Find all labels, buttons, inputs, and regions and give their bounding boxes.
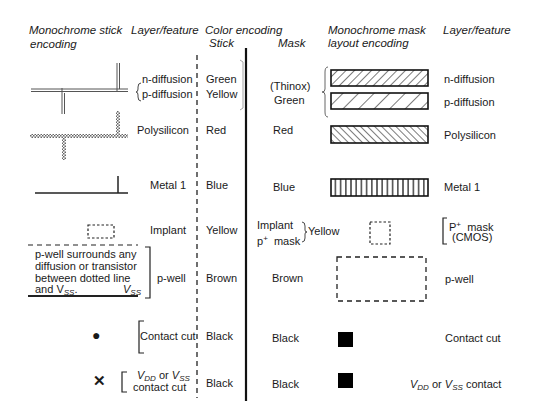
diffusion-brace-stickcol [240,60,243,110]
implant-mask-label-line2: p+ mask [257,232,300,248]
diffusion-brace-mask [322,67,328,117]
n-diffusion-label-right: n-diffusion [444,73,495,86]
vdd-vss-mask-color: Black [272,378,299,391]
contact-mask-pattern [338,332,353,347]
header-layer-feature-right: Layer/feature [443,24,511,37]
vdd-vss-label-right: VDD or VSS contact [410,378,501,394]
polysilicon-label-right: Polysilicon [444,129,496,142]
contact-cut-label: Contact cut [140,330,196,343]
header-color-encoding: Color encoding [205,24,282,37]
p-plus-mask-cmos: (CMOS) [452,231,492,244]
implant-stick-symbol [88,225,114,238]
polysilicon-mask-pattern [331,126,428,143]
header-layer-feature-left: Layer/feature [131,24,199,37]
vdd-vss-stick-color: Black [206,377,233,390]
implant-label: Implant [150,224,186,237]
vdd-vss-label-line2: contact cut [133,381,186,394]
polysilicon-label: Polysilicon [137,124,189,137]
pwell-note-vss: VSS [123,283,141,299]
contact-cut-label-right: Contact cut [445,332,501,345]
diagram-artwork [0,0,535,419]
implant-mask-brace [302,222,307,242]
metal1-mask-color: Blue [273,181,295,194]
metal1-stick-symbol [35,176,128,193]
pwell-stick-color: Brown [206,272,237,285]
pwell-mask-color: Brown [272,272,303,285]
header-stick: Stick [209,37,234,50]
header-mono-mask: Monochrome mask [328,24,426,37]
vdd-vss-bracket [122,372,127,392]
polysilicon-stick-symbol [30,111,128,160]
header-mono-mask-line2: layout encoding [328,37,409,50]
implant-mask-pattern [370,222,390,244]
polysilicon-stick-color: Red [206,124,226,137]
diffusion-brace-left [136,83,141,101]
n-diffusion-label: n-diffusion [142,73,193,86]
diffusion-mask-color-line2: Green [274,94,305,107]
metal1-stick-color: Blue [206,179,228,192]
n-diffusion-mask-pattern [331,70,428,86]
pwell-label-right: p-well [445,273,474,286]
n-diffusion-stick-color: Green [206,73,237,86]
header-mono-stick-line2: encoding [30,38,77,51]
header-mask: Mask [278,37,305,50]
contact-dot-icon: ● [92,329,100,342]
contact-stick-color: Black [206,330,233,343]
pwell-mask-pattern [337,257,426,301]
polysilicon-mask-color: Red [273,124,293,137]
implant-mask-label-line1: Implant [257,219,293,232]
pwell-note-line4: and VSS. [35,283,77,299]
vdd-vss-cross-icon: ✕ [93,374,106,387]
header-mono-stick: Monochrome stick [29,24,122,37]
metal1-mask-pattern [331,179,428,196]
implant-mask-color: Yellow [308,225,339,238]
p-diffusion-stick-color: Yellow [206,88,237,101]
p-diffusion-label: p-diffusion [142,88,193,101]
metal1-label-right: Metal 1 [444,181,480,194]
p-plus-mask-bracket [443,218,447,244]
vdd-vss-mask-pattern [338,373,353,388]
p-diffusion-mask-pattern [331,93,428,109]
contact-mask-color: Black [272,332,299,345]
metal1-label: Metal 1 [150,179,186,192]
diffusion-mask-color-line1: (Thinox) [270,80,310,93]
p-diffusion-label-right: p-diffusion [444,96,495,109]
pwell-label: p-well [157,272,186,285]
diffusion-stick-symbol [31,63,128,114]
implant-stick-color: Yellow [206,224,237,237]
